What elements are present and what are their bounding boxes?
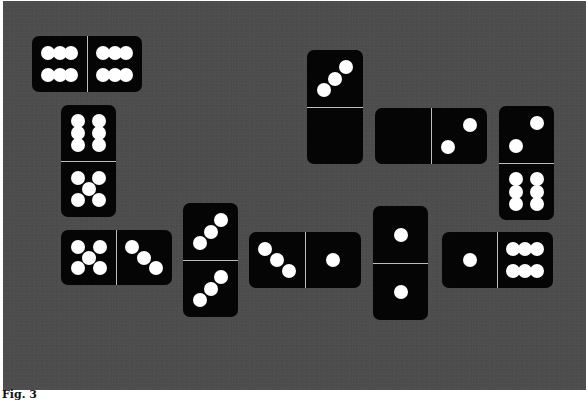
- domino-board: [3, 1, 586, 390]
- pip-icon: [530, 197, 544, 211]
- pip-icon: [71, 171, 85, 185]
- pip-icon: [258, 242, 272, 256]
- domino-half-2: [431, 108, 487, 164]
- domino-6-6: [32, 36, 142, 92]
- pip-icon: [509, 139, 523, 153]
- pip-icon: [92, 171, 106, 185]
- domino-half-3: [117, 230, 173, 285]
- pip-icon: [193, 236, 207, 250]
- domino-2-6: [499, 106, 554, 220]
- domino-half-0: [307, 107, 363, 164]
- domino-0-2: [375, 108, 487, 164]
- domino-half-5: [61, 230, 117, 285]
- domino-half-1: [442, 232, 498, 288]
- domino-half-6: [61, 105, 116, 161]
- pip-icon: [64, 68, 78, 82]
- pip-icon: [463, 253, 477, 267]
- domino-3-1: [249, 232, 361, 288]
- pip-icon: [92, 193, 106, 207]
- pip-icon: [394, 285, 408, 299]
- domino-divider: [61, 161, 116, 162]
- domino-divider: [183, 260, 238, 261]
- domino-half-2: [499, 106, 554, 163]
- pip-icon: [125, 240, 139, 254]
- pip-icon: [394, 228, 408, 242]
- domino-half-6: [499, 163, 554, 220]
- pip-icon: [317, 83, 331, 97]
- pip-icon: [71, 193, 85, 207]
- domino-3-0: [307, 50, 363, 164]
- pip-icon: [270, 253, 284, 267]
- pip-icon: [328, 72, 342, 86]
- pip-icon: [530, 242, 544, 256]
- pip-icon: [119, 46, 133, 60]
- pip-icon: [71, 138, 85, 152]
- pip-icon: [214, 270, 228, 284]
- pip-icon: [149, 261, 163, 275]
- pip-icon: [137, 251, 151, 265]
- pip-icon: [441, 140, 455, 154]
- domino-divider: [497, 232, 498, 288]
- domino-1-6: [442, 232, 553, 288]
- pip-icon: [530, 264, 544, 278]
- domino-half-0: [375, 108, 431, 164]
- pip-icon: [204, 282, 218, 296]
- pip-icon: [339, 60, 353, 74]
- pip-icon: [530, 116, 544, 130]
- pip-icon: [71, 240, 85, 254]
- domino-half-3: [183, 260, 238, 317]
- pip-icon: [93, 261, 107, 275]
- domino-divider: [305, 232, 306, 288]
- domino-half-6: [87, 36, 142, 92]
- domino-half-5: [61, 161, 116, 217]
- pip-icon: [64, 46, 78, 60]
- figure-caption: Fig. 3: [2, 389, 37, 401]
- domino-divider: [499, 163, 554, 164]
- pip-icon: [193, 293, 207, 307]
- domino-half-3: [183, 203, 238, 260]
- domino-half-6: [32, 36, 87, 92]
- domino-5-3: [61, 230, 172, 285]
- domino-half-1: [305, 232, 361, 288]
- pip-icon: [93, 240, 107, 254]
- domino-half-1: [373, 206, 428, 263]
- domino-divider: [87, 36, 88, 92]
- domino-1-1: [373, 206, 428, 320]
- pip-icon: [82, 251, 96, 265]
- pip-icon: [204, 225, 218, 239]
- pip-icon: [82, 182, 96, 196]
- pip-icon: [326, 253, 340, 267]
- domino-divider: [307, 107, 363, 108]
- pip-icon: [214, 213, 228, 227]
- pip-icon: [92, 138, 106, 152]
- domino-divider: [431, 108, 432, 164]
- domino-half-6: [498, 232, 554, 288]
- domino-divider: [373, 263, 428, 264]
- domino-6-5: [61, 105, 116, 217]
- domino-divider: [116, 230, 117, 285]
- pip-icon: [509, 197, 523, 211]
- domino-half-3: [307, 50, 363, 107]
- domino-half-3: [249, 232, 305, 288]
- pip-icon: [119, 68, 133, 82]
- domino-3-3: [183, 203, 238, 317]
- pip-icon: [463, 118, 477, 132]
- pip-icon: [282, 264, 296, 278]
- domino-half-1: [373, 263, 428, 320]
- pip-icon: [71, 261, 85, 275]
